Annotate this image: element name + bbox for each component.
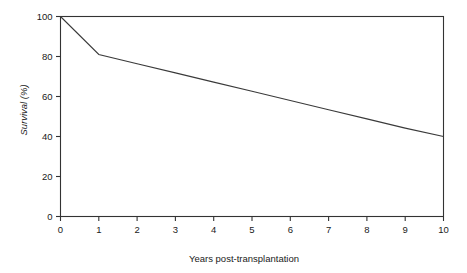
x-tick-label: 8	[364, 224, 369, 235]
x-tick-label: 6	[288, 224, 293, 235]
survival-chart-figure: 020406080100 012345678910 Years post-tra…	[0, 0, 467, 273]
y-tick-label: 100	[37, 11, 53, 22]
x-tick-label: 7	[326, 224, 331, 235]
y-axis-title: Survival (%)	[18, 84, 29, 135]
x-tick-label: 3	[173, 224, 178, 235]
y-tick-label: 60	[42, 91, 53, 102]
y-tick-label: 0	[47, 211, 52, 222]
x-tick-label: 0	[58, 224, 63, 235]
y-tick-label: 80	[42, 51, 53, 62]
x-tick-label: 9	[403, 224, 408, 235]
x-tick-label: 5	[249, 224, 254, 235]
x-tick-label: 4	[211, 224, 216, 235]
survival-line-chart: 020406080100 012345678910 Years post-tra…	[0, 0, 467, 273]
y-tick-label: 40	[42, 131, 53, 142]
y-tick-label: 20	[42, 171, 53, 182]
chart-background	[0, 0, 467, 273]
x-tick-label: 10	[438, 224, 449, 235]
x-tick-label: 2	[134, 224, 139, 235]
x-tick-label: 1	[96, 224, 101, 235]
x-axis-title: Years post-transplantation	[189, 253, 299, 264]
